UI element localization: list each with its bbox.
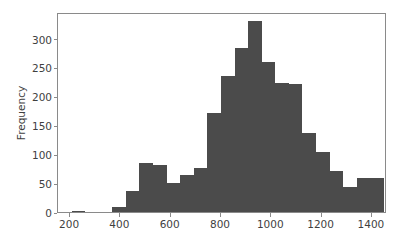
y-tick-label: 300: [32, 34, 52, 46]
y-tick-label: 200: [32, 91, 52, 103]
histogram-bars: [58, 14, 385, 212]
histogram-bar: [357, 178, 371, 212]
histogram-bar: [180, 175, 194, 212]
histogram-bar: [112, 207, 126, 212]
histogram-bar: [153, 165, 167, 212]
histogram-bar: [370, 178, 384, 212]
histogram-bar: [275, 83, 289, 212]
histogram-bar: [316, 152, 330, 212]
x-tick-label: 1400: [358, 218, 385, 230]
histogram-bar: [343, 187, 357, 212]
histogram-bar: [194, 168, 208, 212]
x-tick-label: 200: [59, 218, 79, 230]
y-tick-label: 250: [32, 62, 52, 74]
x-tick-mark: [170, 213, 171, 217]
histogram-bar: [289, 84, 303, 212]
x-tick-mark: [220, 213, 221, 217]
x-tick-mark: [371, 213, 372, 217]
y-tick-label: 100: [32, 149, 52, 161]
x-tick-label: 400: [109, 218, 129, 230]
histogram-bar: [235, 48, 249, 212]
x-tick-mark: [321, 213, 322, 217]
histogram-bar: [302, 133, 316, 212]
y-tick-label: 0: [45, 207, 52, 219]
histogram-bar: [139, 163, 153, 212]
histogram-bar: [248, 21, 262, 212]
histogram-figure: Frequency 050100150200250300 20040060080…: [0, 0, 398, 247]
histogram-bar: [207, 113, 221, 212]
x-tick-mark: [270, 213, 271, 217]
x-tick-mark: [69, 213, 70, 217]
histogram-bar: [262, 62, 276, 212]
x-tick-mark: [119, 213, 120, 217]
x-tick-label: 800: [210, 218, 230, 230]
histogram-bar: [167, 183, 181, 212]
plot-area: [57, 13, 386, 213]
y-axis-ticks: 050100150200250300: [0, 13, 57, 213]
histogram-bar: [221, 76, 235, 212]
histogram-bar: [72, 211, 86, 212]
x-tick-label: 600: [160, 218, 180, 230]
x-tick-label: 1000: [257, 218, 284, 230]
y-tick-label: 50: [39, 178, 52, 190]
histogram-bar: [330, 171, 344, 212]
x-tick-label: 1200: [307, 218, 334, 230]
histogram-bar: [126, 191, 140, 212]
x-axis-ticks: 200400600800100012001400: [57, 213, 386, 243]
y-tick-label: 150: [32, 120, 52, 132]
